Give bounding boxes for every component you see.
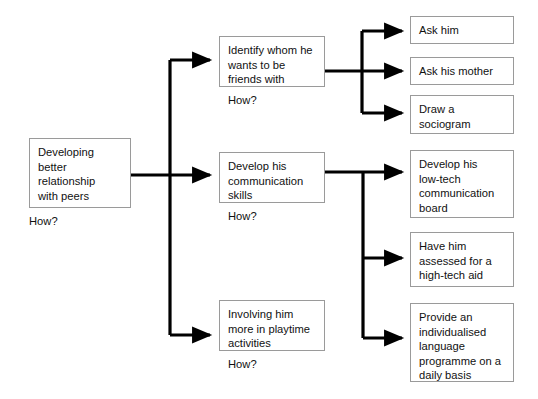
- how-label-strategy-1: How?: [228, 93, 257, 107]
- node-strategy-1[interactable]: Identify whom he wants to be friends wit…: [219, 36, 325, 87]
- node-action-2[interactable]: Ask his mother: [410, 57, 514, 85]
- node-action-3[interactable]: Draw a sociogram: [410, 95, 514, 134]
- how-label-strategy-3: How?: [228, 357, 257, 371]
- connector-goal-to-strategies: [131, 60, 210, 335]
- flowchart-canvas: Developing better relationship with peer…: [0, 0, 538, 399]
- how-label-goal: How?: [29, 214, 58, 228]
- node-action-5[interactable]: Have him assessed for a high-tech aid: [410, 232, 514, 287]
- connector-strategy2-to-actions: [325, 172, 402, 338]
- node-action-4[interactable]: Develop his low-tech communication board: [410, 150, 514, 218]
- node-goal[interactable]: Developing better relationship with peer…: [29, 138, 131, 208]
- node-strategy-3[interactable]: Involving him more in playtime activitie…: [219, 300, 325, 351]
- node-action-1[interactable]: Ask him: [410, 16, 514, 44]
- how-label-strategy-2: How?: [228, 209, 257, 223]
- node-action-6[interactable]: Provide an individualised language progr…: [410, 303, 514, 382]
- node-strategy-2[interactable]: Develop his communication skills: [219, 152, 325, 203]
- connector-strategy1-to-actions: [325, 31, 402, 113]
